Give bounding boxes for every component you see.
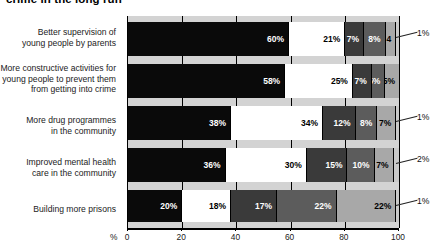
bar-segment-value: 36% (204, 161, 225, 170)
bar-segment-1[interactable]: 38% (128, 106, 231, 140)
bar-segment-value: 18% (209, 202, 230, 211)
callout-label: 1% (417, 112, 429, 122)
bar-segment-4[interactable]: 8% (356, 106, 378, 140)
bar-segment-3[interactable]: 7% (345, 22, 364, 56)
category-labels: Better supervision ofyoung people by par… (0, 0, 122, 247)
bar-segment-value: 7% (355, 77, 371, 86)
bar-segment-value: 25% (331, 77, 352, 86)
bar-segment-value: 38% (209, 119, 230, 128)
bar-segment-value: 22% (374, 202, 395, 211)
bar-segment-value: 17% (255, 202, 276, 211)
bar-segment-value: 8% (368, 35, 384, 44)
bar-segment-3[interactable]: 15% (307, 148, 348, 182)
category-label-line: Building more prisons (0, 204, 116, 215)
x-axis: 020406080100 (127, 228, 398, 246)
category-label: Improved mental healthcare in the commun… (0, 157, 116, 178)
bar-segment-value: 30% (285, 161, 306, 170)
category-label-line: Better supervision of (0, 27, 116, 38)
bar-segment-2[interactable]: 25% (285, 64, 353, 98)
bar-row[interactable]: 38%34%12%8%7% (128, 106, 399, 140)
axis-tick (344, 228, 345, 231)
bar-segment-value: 10% (353, 161, 374, 170)
bar-segment-6[interactable] (396, 22, 399, 56)
axis-tick-label: 40 (231, 232, 240, 242)
bar-segment-6[interactable] (396, 106, 399, 140)
bar-segment-value: 7% (347, 35, 363, 44)
bar-segment-2[interactable]: 34% (231, 106, 323, 140)
axis-tick-label: 0 (125, 232, 130, 242)
bar-segment-value: 15% (325, 161, 346, 170)
category-label: More drug programmesin the community (0, 115, 116, 136)
bar-segment-2[interactable]: 21% (289, 22, 345, 56)
category-label-line: young people by parents (0, 38, 116, 49)
bar-segment-value: 60% (267, 35, 288, 44)
category-label-line: young people to prevent them (0, 74, 116, 85)
axis-tick (181, 228, 182, 231)
callout-label: 1% (417, 28, 429, 38)
callout-label: 2% (417, 154, 429, 164)
bar-segment-6[interactable] (396, 190, 399, 222)
category-label-line: in the community (0, 126, 116, 137)
bar-segment-1[interactable]: 60% (128, 22, 289, 56)
bar-segment-value: 20% (160, 202, 181, 211)
axis-tick (290, 228, 291, 231)
bar-segment-value: 8% (360, 119, 376, 128)
bar-row[interactable]: 58%25%7%5%5% (128, 64, 399, 98)
bar-segment-value: 5% (385, 77, 399, 86)
chart-plot-area: 60%21%7%8%458%25%7%5%5%38%34%12%8%7%36%3… (127, 16, 400, 228)
axis-tick-label: 20 (177, 232, 186, 242)
bar-segment-value: 7% (376, 161, 392, 170)
category-label-line: from getting into crime (0, 84, 116, 95)
axis-percent-symbol: % (110, 232, 117, 242)
bar-segment-4[interactable]: 22% (277, 190, 337, 222)
bar-segment-5[interactable]: 7% (375, 148, 394, 182)
category-label-line: More constructive activities for (0, 63, 116, 74)
bar-segment-5[interactable]: 5% (385, 64, 399, 98)
axis-tick (398, 228, 399, 231)
axis-tick-label: 60 (285, 232, 294, 242)
bar-segment-1[interactable]: 36% (128, 148, 226, 182)
bar-segment-4[interactable]: 10% (347, 148, 374, 182)
bar-segment-value: 21% (323, 35, 344, 44)
bar-segment-value: 22% (315, 202, 336, 211)
bar-row[interactable]: 36%30%15%10%7% (128, 148, 399, 182)
category-label: More constructive activities foryoung pe… (0, 63, 116, 95)
category-label-line: Improved mental health (0, 157, 116, 168)
bar-segment-3[interactable]: 12% (323, 106, 356, 140)
bar-segment-2[interactable]: 30% (226, 148, 307, 182)
bar-segment-5[interactable]: 7% (377, 106, 396, 140)
bar-row[interactable]: 60%21%7%8%4 (128, 22, 399, 56)
axis-tick (235, 228, 236, 231)
category-label-line: More drug programmes (0, 115, 116, 126)
bar-row[interactable]: 20%18%17%22%22% (128, 190, 399, 222)
bar-segment-3[interactable]: 7% (353, 64, 372, 98)
bar-segment-4[interactable]: 8% (364, 22, 385, 56)
axis-tick-label: 80 (339, 232, 348, 242)
bar-segment-value: 58% (263, 77, 284, 86)
bar-segment-1[interactable]: 20% (128, 190, 182, 222)
axis-tick-label: 100 (391, 232, 405, 242)
bar-segment-6[interactable] (394, 148, 399, 182)
category-label: Better supervision ofyoung people by par… (0, 27, 116, 48)
bar-segment-value: 4 (387, 35, 396, 44)
callout-label: 1% (417, 196, 429, 206)
bar-segment-4[interactable]: 5% (372, 64, 386, 98)
bar-segment-2[interactable]: 18% (182, 190, 231, 222)
category-label-line: care in the community (0, 168, 116, 179)
bar-segment-5[interactable]: 4 (386, 22, 397, 56)
bar-segment-1[interactable]: 58% (128, 64, 285, 98)
axis-tick (127, 228, 128, 231)
bar-segment-3[interactable]: 17% (231, 190, 277, 222)
bar-segment-value: 12% (334, 119, 355, 128)
bar-segment-value: 34% (301, 119, 322, 128)
category-label: Building more prisons (0, 204, 116, 215)
bar-segment-value: 7% (379, 119, 395, 128)
bar-segment-value: 5% (372, 77, 385, 86)
bar-segment-5[interactable]: 22% (337, 190, 397, 222)
